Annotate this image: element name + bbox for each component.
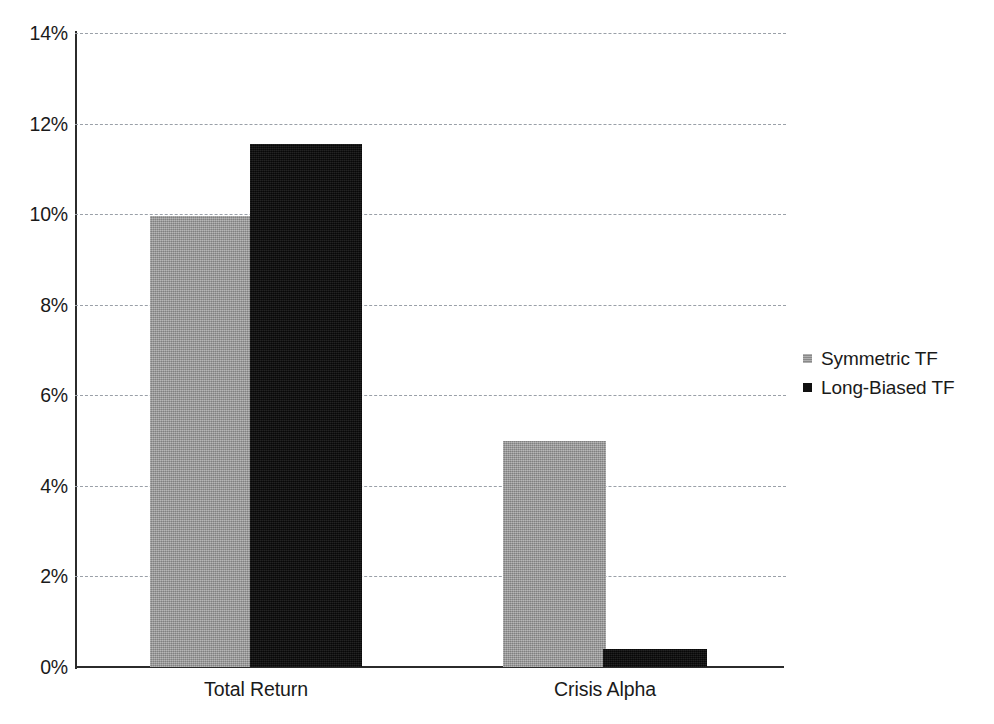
y-axis-tick-label: 2% (2, 565, 68, 588)
y-axis-tick-label: 0% (2, 656, 68, 679)
gridline (75, 124, 786, 125)
y-axis-tick-label: 4% (2, 474, 68, 497)
y-axis-tick-label: 8% (2, 293, 68, 316)
x-axis-category-label: Total Return (204, 678, 308, 701)
y-axis-tick-label: 14% (2, 22, 68, 45)
chart-legend: Symmetric TFLong-Biased TF (803, 344, 954, 402)
gridline (75, 33, 786, 34)
y-axis-tick-label: 6% (2, 384, 68, 407)
bar-longbiased (603, 649, 707, 667)
bar-chart: 0%2%4%6%8%10%12%14% Total ReturnCrisis A… (0, 0, 994, 724)
bar-longbiased (250, 144, 362, 667)
legend-swatch-icon (803, 383, 812, 392)
gridline (75, 214, 786, 215)
x-axis-category-label: Crisis Alpha (554, 678, 656, 701)
legend-swatch-icon (803, 354, 812, 363)
y-axis-tick-label: 10% (2, 203, 68, 226)
legend-item[interactable]: Symmetric TF (803, 344, 954, 373)
plot-area (75, 33, 786, 667)
y-axis-tick-labels: 0%2%4%6%8%10%12%14% (0, 0, 68, 724)
legend-item[interactable]: Long-Biased TF (803, 373, 954, 402)
bar-symmetric (150, 216, 250, 667)
bar-symmetric (503, 441, 606, 667)
legend-label: Long-Biased TF (821, 377, 954, 399)
y-axis-tick-label: 12% (2, 112, 68, 135)
legend-label: Symmetric TF (821, 348, 938, 370)
